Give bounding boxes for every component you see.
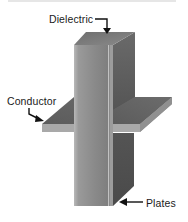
- plates-arrow-icon: [119, 198, 143, 206]
- conductor-arrow-icon: [29, 108, 44, 122]
- capacitor-diagram: Dielectric Conductor Plates: [0, 0, 188, 222]
- capacitor-drawing: [0, 0, 188, 222]
- plates-label: Plates: [146, 197, 176, 209]
- lower-plate: [113, 133, 134, 206]
- conductor-label: Conductor: [7, 95, 56, 107]
- dielectric-label: Dielectric: [49, 13, 93, 25]
- dielectric-arrow-icon: [95, 19, 111, 34]
